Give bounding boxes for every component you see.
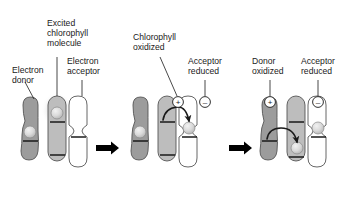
label-acceptor-reduced-mid-line1: Acceptor bbox=[188, 56, 222, 66]
label-donor-oxidized-line1: Donor bbox=[252, 56, 276, 66]
label-acceptor-reduced-mid-line2: reduced bbox=[188, 66, 219, 76]
label-electron-acceptor-line1: Electron bbox=[67, 56, 99, 66]
label-electron-donor-line1: Electron bbox=[12, 65, 44, 75]
label-electron-acceptor-line2: acceptor bbox=[67, 66, 100, 76]
labels-group: Electron donor Excited chlorophyll molec… bbox=[12, 18, 335, 85]
panel-1-electron-acceptor bbox=[69, 96, 87, 167]
label-chlorophyll-oxidized-line1: Chlorophyll bbox=[133, 32, 176, 42]
panel-2-acceptor-electron bbox=[183, 122, 195, 134]
panel-3-chlorophyll-electron bbox=[291, 142, 303, 154]
label-excited-chlorophyll-line1: Excited bbox=[47, 18, 75, 28]
panel-1-chlorophyll-electron bbox=[51, 107, 63, 119]
panel-1 bbox=[21, 92, 87, 167]
diagram-canvas: + – bbox=[0, 0, 357, 201]
label-excited-chlorophyll-line2: chlorophyll bbox=[47, 28, 88, 38]
label-excited-chlorophyll-line3: molecule bbox=[47, 38, 82, 48]
panel-2-minus-sign: – bbox=[203, 98, 208, 107]
panel-2-chlorophyll-charge: + bbox=[173, 97, 184, 108]
panel-3-minus-sign: – bbox=[316, 98, 321, 107]
label-electron-donor-line2: donor bbox=[12, 75, 34, 85]
panel-3-acceptor-electron bbox=[312, 122, 324, 134]
panel-2-plus-sign: + bbox=[176, 98, 181, 107]
panel-3-plus-sign: + bbox=[268, 98, 273, 107]
panel-2-chlorophyll bbox=[158, 96, 176, 161]
step-arrow-2 bbox=[229, 142, 252, 155]
panel-2: + – bbox=[131, 96, 210, 167]
panel-2-donor-electron bbox=[134, 126, 146, 138]
step-arrow-1 bbox=[96, 142, 119, 155]
leader-chlorophyll-oxidized bbox=[160, 57, 177, 96]
label-acceptor-reduced-right-line2: reduced bbox=[301, 66, 332, 76]
label-acceptor-reduced-right-line1: Acceptor bbox=[301, 56, 335, 66]
label-donor-oxidized-line2: oxidized bbox=[252, 66, 284, 76]
photosynthesis-electron-transfer-figure: + – bbox=[0, 0, 357, 201]
panel-1-donor-electron bbox=[24, 126, 36, 138]
label-chlorophyll-oxidized-line2: oxidized bbox=[133, 42, 165, 52]
panel-3-donor-charge: + bbox=[265, 97, 276, 108]
panel-2-acceptor-charge: – bbox=[200, 97, 211, 108]
panel-3-acceptor-charge: – bbox=[313, 97, 324, 108]
panel-1-chlorophyll bbox=[48, 96, 66, 161]
panel-3: + – bbox=[260, 96, 326, 167]
